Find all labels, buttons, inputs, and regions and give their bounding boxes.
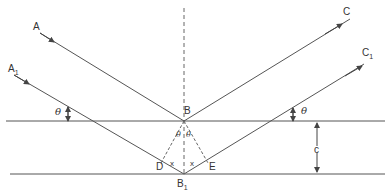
label-x-right: x	[190, 159, 194, 168]
ray-A1-B1	[14, 75, 184, 174]
label-E: E	[209, 161, 216, 172]
ray-A-arrow-icon	[40, 33, 54, 42]
label-A1: A1	[8, 63, 19, 76]
ray-B-C	[184, 19, 350, 121]
label-x-left: x	[170, 159, 174, 168]
label-B: B	[184, 105, 191, 116]
label-theta-inner-left: θ	[176, 130, 181, 139]
label-A: A	[33, 21, 40, 32]
label-C1: C1	[362, 47, 373, 60]
label-theta-right: θ	[301, 105, 307, 116]
bragg-diagram: A A1 C C1 B B1 D E x x θ θ θ θ c	[0, 0, 390, 195]
label-D: D	[156, 161, 163, 172]
ray-C1-arrow-icon	[345, 66, 362, 76]
label-C: C	[343, 6, 350, 17]
label-theta-left: θ	[55, 106, 61, 117]
ray-B1-C1	[184, 64, 364, 174]
diagram-svg: A A1 C C1 B B1 D E x x θ θ θ θ c	[0, 0, 390, 195]
ray-A1-arrow-icon	[14, 75, 29, 84]
label-B1: B1	[177, 178, 188, 191]
dashed-B-D	[161, 121, 184, 163]
label-spacing-c: c	[314, 144, 319, 155]
label-theta-inner-right: θ	[186, 130, 191, 139]
dashed-B-E	[184, 121, 208, 163]
ray-A-B	[40, 33, 184, 121]
ray-C-arrow-icon	[325, 24, 342, 34]
